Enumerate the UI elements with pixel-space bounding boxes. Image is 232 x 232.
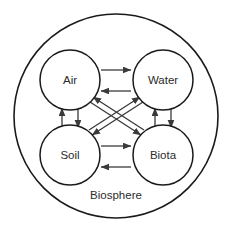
node-biota: Biota: [133, 125, 193, 185]
node-water: Water: [133, 50, 193, 110]
node-air: Air: [40, 50, 100, 110]
node-soil-label: Soil: [60, 149, 79, 161]
node-air-label: Air: [63, 74, 77, 86]
node-biota-label: Biota: [150, 149, 177, 161]
biosphere-label: Biosphere: [90, 189, 142, 201]
node-water-label: Water: [148, 74, 178, 86]
biosphere-diagram: Air Water Soil Biota Biosphere: [0, 0, 232, 232]
node-soil: Soil: [40, 125, 100, 185]
diagram-canvas: Air Water Soil Biota Biosphere: [0, 0, 232, 232]
biosphere-boundary-circle: [14, 14, 218, 218]
